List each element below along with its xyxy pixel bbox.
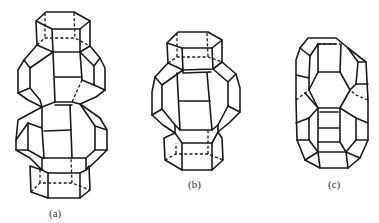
polyhedron-a xyxy=(16,12,107,198)
label-c: (c) xyxy=(328,178,340,190)
label-a: (a) xyxy=(49,207,61,219)
polyhedron-c xyxy=(296,38,368,168)
polyhedron-b xyxy=(152,32,240,170)
label-b: (b) xyxy=(188,178,201,190)
